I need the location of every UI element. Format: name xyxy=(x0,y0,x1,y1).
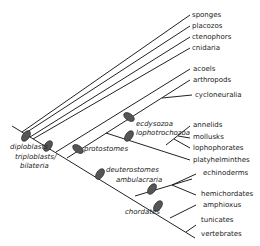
branch-amphioxus xyxy=(170,205,196,218)
label-sponges: sponges xyxy=(192,11,221,19)
label-triploblasts: triploblasts/ xyxy=(15,153,56,161)
label-echinoderms: echinoderms xyxy=(203,169,248,177)
label-hemichordates: hemichordates xyxy=(201,190,253,198)
branch-tunicates xyxy=(186,225,196,232)
label-diploblasts: diploblasts xyxy=(10,143,48,151)
label-cycloneuralia: cycloneuralia xyxy=(195,91,242,99)
node-lophotrochozoa xyxy=(123,129,136,143)
label-bilateria: bilateria xyxy=(20,162,49,170)
branch-lophophorates xyxy=(174,139,190,148)
label-platyhelminthes: platyhelminthes xyxy=(193,156,250,164)
branch-echinoderms xyxy=(172,174,196,185)
node-diploblasts xyxy=(20,129,33,143)
label-deuterostomes: deuterostomes xyxy=(106,166,159,174)
branch-hemichordates xyxy=(172,185,196,195)
label-arthropods: arthropods xyxy=(193,76,231,84)
label-lophotrochozoa: lophotrochozoa xyxy=(136,129,190,137)
label-vertebrates: vertebrates xyxy=(201,230,242,238)
label-ctenophors: ctenophors xyxy=(192,33,231,41)
label-tunicates: tunicates xyxy=(201,216,233,224)
label-cnidaria: cnidaria xyxy=(192,44,220,52)
label-ambulacraria: ambulacraria xyxy=(116,176,162,184)
label-lophophorates: lophophorates xyxy=(193,144,243,152)
node-deuterostomes xyxy=(94,167,107,181)
label-ecdysozoa: ecdysozoa xyxy=(136,120,173,128)
branch-acoels xyxy=(56,69,190,152)
branch-placozos xyxy=(24,26,190,134)
node-protostomes xyxy=(71,143,85,156)
node-ambulacraria xyxy=(146,182,159,196)
label-acoels: acoels xyxy=(193,65,215,73)
label-amphioxus: amphioxus xyxy=(203,201,241,209)
label-placozos: placozos xyxy=(192,22,222,30)
label-chordates: chordates xyxy=(125,208,160,216)
label-mollusks: mollusks xyxy=(193,133,224,141)
label-annelids: annelids xyxy=(193,121,222,129)
label-protostomes: protostomes xyxy=(84,145,128,153)
branch-sponges xyxy=(22,15,190,132)
